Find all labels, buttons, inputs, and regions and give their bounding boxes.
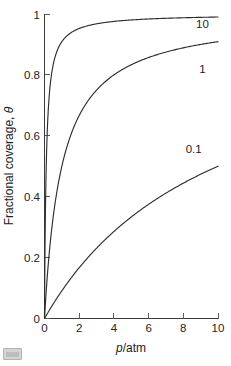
x-tick-label: 6	[145, 322, 151, 334]
image-placeholder-badge	[3, 348, 22, 360]
curve-k0-1	[45, 166, 219, 318]
y-tick-label: 0.4	[24, 191, 41, 203]
curve-k1	[45, 42, 219, 319]
y-tick-label: 1	[34, 9, 40, 21]
curve-labels: 10 1 0.1	[186, 18, 209, 155]
curve-label-0-1: 0.1	[186, 143, 202, 155]
y-tick-labels: 0 0.2 0.4 0.6 0.8 1	[24, 9, 41, 325]
y-axis-title-theta: θ	[2, 106, 16, 113]
langmuir-isotherm-chart: 0 0.2 0.4 0.6 0.8 1 0 2 4 6 8 10 10 1 0.…	[0, 0, 231, 366]
axis-titles: p/atm Fractional coverage, θ	[2, 106, 146, 355]
y-tick-label: 0	[34, 313, 40, 325]
curve-k10	[45, 17, 219, 318]
x-tick-labels: 0 2 4 6 8 10	[41, 322, 224, 334]
curve-label-1: 1	[199, 63, 205, 75]
x-tick-label: 4	[111, 322, 118, 334]
y-axis-title-text: Fractional coverage,	[2, 113, 16, 225]
chart-figure: 0 0.2 0.4 0.6 0.8 1 0 2 4 6 8 10 10 1 0.…	[0, 0, 231, 366]
y-axis-title: Fractional coverage, θ	[2, 106, 16, 225]
x-axis-title: p/atm	[115, 341, 146, 355]
curve-label-10: 10	[196, 18, 209, 30]
axes-group	[45, 14, 219, 319]
x-tick-label: 0	[41, 322, 47, 334]
y-tick-label: 0.8	[24, 69, 40, 81]
x-axis-ticks	[45, 313, 219, 319]
curves-group	[45, 17, 219, 318]
x-tick-label: 2	[76, 322, 82, 334]
x-tick-label: 8	[180, 322, 186, 334]
x-axis-title-rest: /atm	[123, 341, 146, 355]
x-tick-label: 10	[212, 322, 225, 334]
y-tick-label: 0.6	[24, 130, 40, 142]
y-tick-label: 0.2	[24, 252, 40, 264]
